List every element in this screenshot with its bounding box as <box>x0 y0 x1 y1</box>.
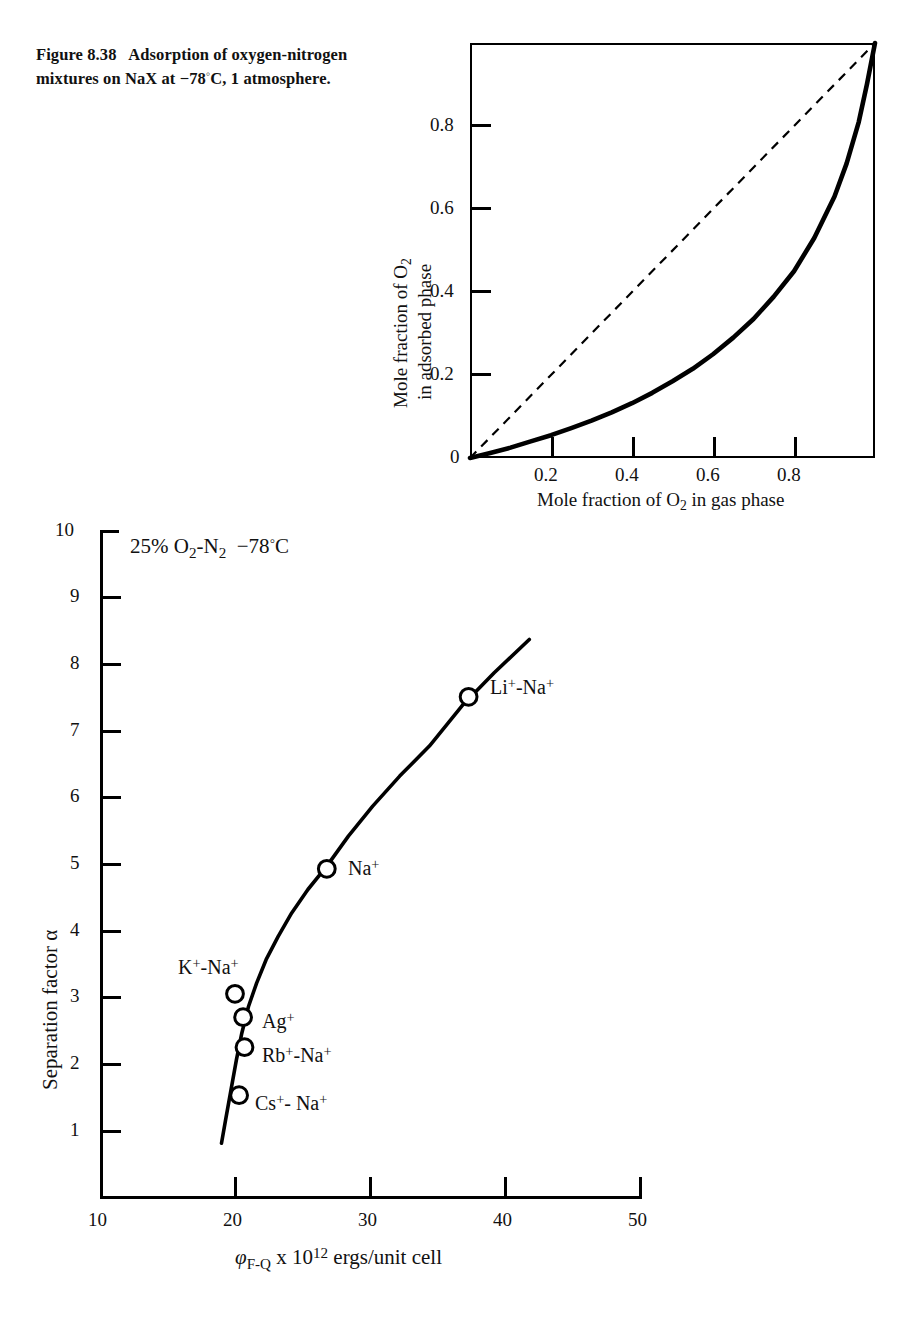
datapoint-label-rb: Rb+-Na+ <box>262 1043 332 1067</box>
xtick-label-40: 40 <box>493 1209 512 1231</box>
ytick-label-2: 2 <box>70 1052 80 1074</box>
ytick-label-3: 3 <box>70 985 80 1007</box>
xtick-label-30: 30 <box>358 1209 377 1231</box>
xtick-label-10: 10 <box>88 1209 107 1231</box>
ytick-label-4: 4 <box>70 919 80 941</box>
ytick-label-8: 8 <box>70 652 80 674</box>
datapoint-marker-ag <box>235 1009 252 1026</box>
datapoint-label-cs: Cs+- Na+ <box>255 1091 327 1115</box>
xtick-label-50: 50 <box>628 1209 647 1231</box>
chart-separation-factor: 10 9 8 7 6 5 4 3 2 1 10 20 30 40 50 25% … <box>0 0 913 1317</box>
datapoint-marker-rb <box>236 1039 253 1056</box>
ytick-label-9: 9 <box>70 585 80 607</box>
xtick-label-20: 20 <box>223 1209 242 1231</box>
ytick-label-1: 1 <box>70 1119 80 1141</box>
plot-curves-bottom <box>100 530 660 1210</box>
ytick-label-5: 5 <box>70 852 80 874</box>
separation-factor-curve <box>222 640 530 1144</box>
ytick-label-10: 10 <box>55 519 74 541</box>
datapoint-label-li: Li+-Na+ <box>490 675 554 699</box>
datapoint-marker-na <box>318 860 335 877</box>
datapoint-label-na: Na+ <box>348 856 379 880</box>
figure-page: Figure 8.38 Adsorption of oxygen-nitroge… <box>0 0 913 1317</box>
datapoint-label-k: K+-Na+ <box>178 955 239 979</box>
ytick-label-6: 6 <box>70 785 80 807</box>
yaxis-title-bottom: Separation factor α <box>38 930 63 1090</box>
xaxis-title-bottom: φF-Q x 1012 ergs/unit cell <box>235 1245 442 1273</box>
datapoint-marker-k <box>227 985 244 1002</box>
datapoint-label-ag: Ag+ <box>262 1009 295 1033</box>
datapoint-marker-cs <box>231 1087 248 1104</box>
ytick-label-7: 7 <box>70 719 80 741</box>
datapoint-marker-li <box>460 688 477 705</box>
